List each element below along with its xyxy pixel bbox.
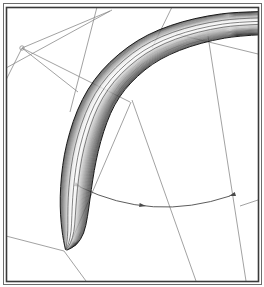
- cad-viewport[interactable]: [0, 0, 264, 287]
- cad-render-canvas[interactable]: [0, 0, 264, 287]
